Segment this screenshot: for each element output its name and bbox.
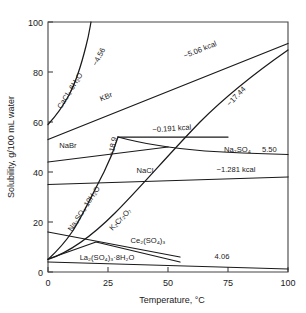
x-tick-label-50: 50 — [163, 278, 173, 288]
curve-cacl2-6h2o — [48, 22, 91, 125]
series-label-cacl2-6h2o: CaCl₂·6H₂O — [55, 71, 84, 111]
series-label-k2cr2o7: K₂Cr₂O₇ — [107, 206, 133, 232]
y-axis-title: Solubility, g/100 mL water — [6, 96, 16, 198]
annotation-cacl2-6h2o: −4.56 — [90, 46, 107, 67]
x-tick-label-100: 100 — [280, 278, 295, 288]
x-axis-tick-labels: 0 25 50 75 100 — [45, 278, 295, 288]
solubility-chart: 100 80 60 40 20 0 0 25 50 75 100 Tempera… — [0, 0, 306, 313]
y-tick-label-100: 100 — [28, 18, 43, 28]
series-label-la2so43-8h2o: La₂(SO₄)₃·8H₂O — [80, 253, 135, 262]
x-tick-label-75: 75 — [223, 278, 233, 288]
annotation-baseline-406: 4.06 — [215, 252, 230, 261]
series-label-na2so4: Na₂SO₄ — [224, 145, 251, 154]
y-tick-label-0: 0 — [38, 268, 43, 278]
series-label-ce2so43: Ce₂(SO₄)₃ — [131, 236, 166, 245]
curve-nacl — [48, 177, 288, 185]
series-label-na2so4-10h2o: Na₂SO₄·10H₂O — [66, 184, 102, 233]
series-label-kbr: KBr — [99, 90, 115, 103]
series-labels: CaCl₂·6H₂O −4.56 KBr −5.06 kcal NaBr Na₂… — [55, 39, 277, 262]
data-curves — [48, 22, 288, 269]
chart-canvas: 100 80 60 40 20 0 0 25 50 75 100 Tempera… — [0, 0, 306, 313]
annotation-kbr: −5.06 kcal — [182, 39, 218, 61]
curve-k2cr2o7 — [48, 50, 288, 260]
y-tick-label-80: 80 — [33, 68, 43, 78]
annotation-na2so4-value: 5.50 — [262, 145, 277, 154]
x-tick-label-25: 25 — [103, 278, 113, 288]
annotation-na2so4: −0.191 kcal — [152, 123, 192, 135]
annotation-nacl: −1.281 kcal — [216, 165, 255, 174]
y-axis-tick-labels: 100 80 60 40 20 0 — [28, 18, 43, 278]
y-tick-label-60: 60 — [33, 118, 43, 128]
y-tick-label-20: 20 — [33, 218, 43, 228]
y-axis-ticks — [48, 22, 53, 272]
series-label-nacl: NaCl — [137, 166, 154, 175]
y-tick-label-40: 40 — [33, 168, 43, 178]
x-axis-title: Temperature, °C — [139, 295, 205, 305]
x-tick-label-0: 0 — [45, 278, 50, 288]
series-label-nabr: NaBr — [59, 141, 77, 150]
